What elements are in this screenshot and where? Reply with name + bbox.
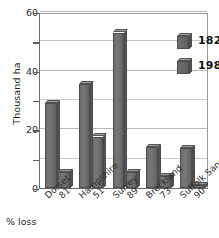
x-axis-footnote: % loss	[6, 216, 36, 227]
bar-hampshire-1820s	[79, 84, 91, 188]
legend: 1820s 1980s	[173, 28, 219, 78]
legend-label: 1820s	[198, 34, 219, 47]
chart-figure: Thousand ha 6040200 1820s 1980s Dorset81…	[0, 0, 219, 238]
legend-label: 1980s	[198, 59, 219, 72]
legend-cube-icon	[177, 33, 192, 49]
legend-cube-icon	[177, 58, 192, 74]
plot-area: 1820s 1980s	[39, 13, 208, 189]
legend-item-1980s: 1980s	[173, 53, 219, 78]
gridline	[40, 11, 207, 12]
y-tick-mark	[33, 189, 39, 190]
legend-item-1820s: 1820s	[173, 28, 219, 53]
bar-dorset-1820s	[45, 103, 57, 188]
